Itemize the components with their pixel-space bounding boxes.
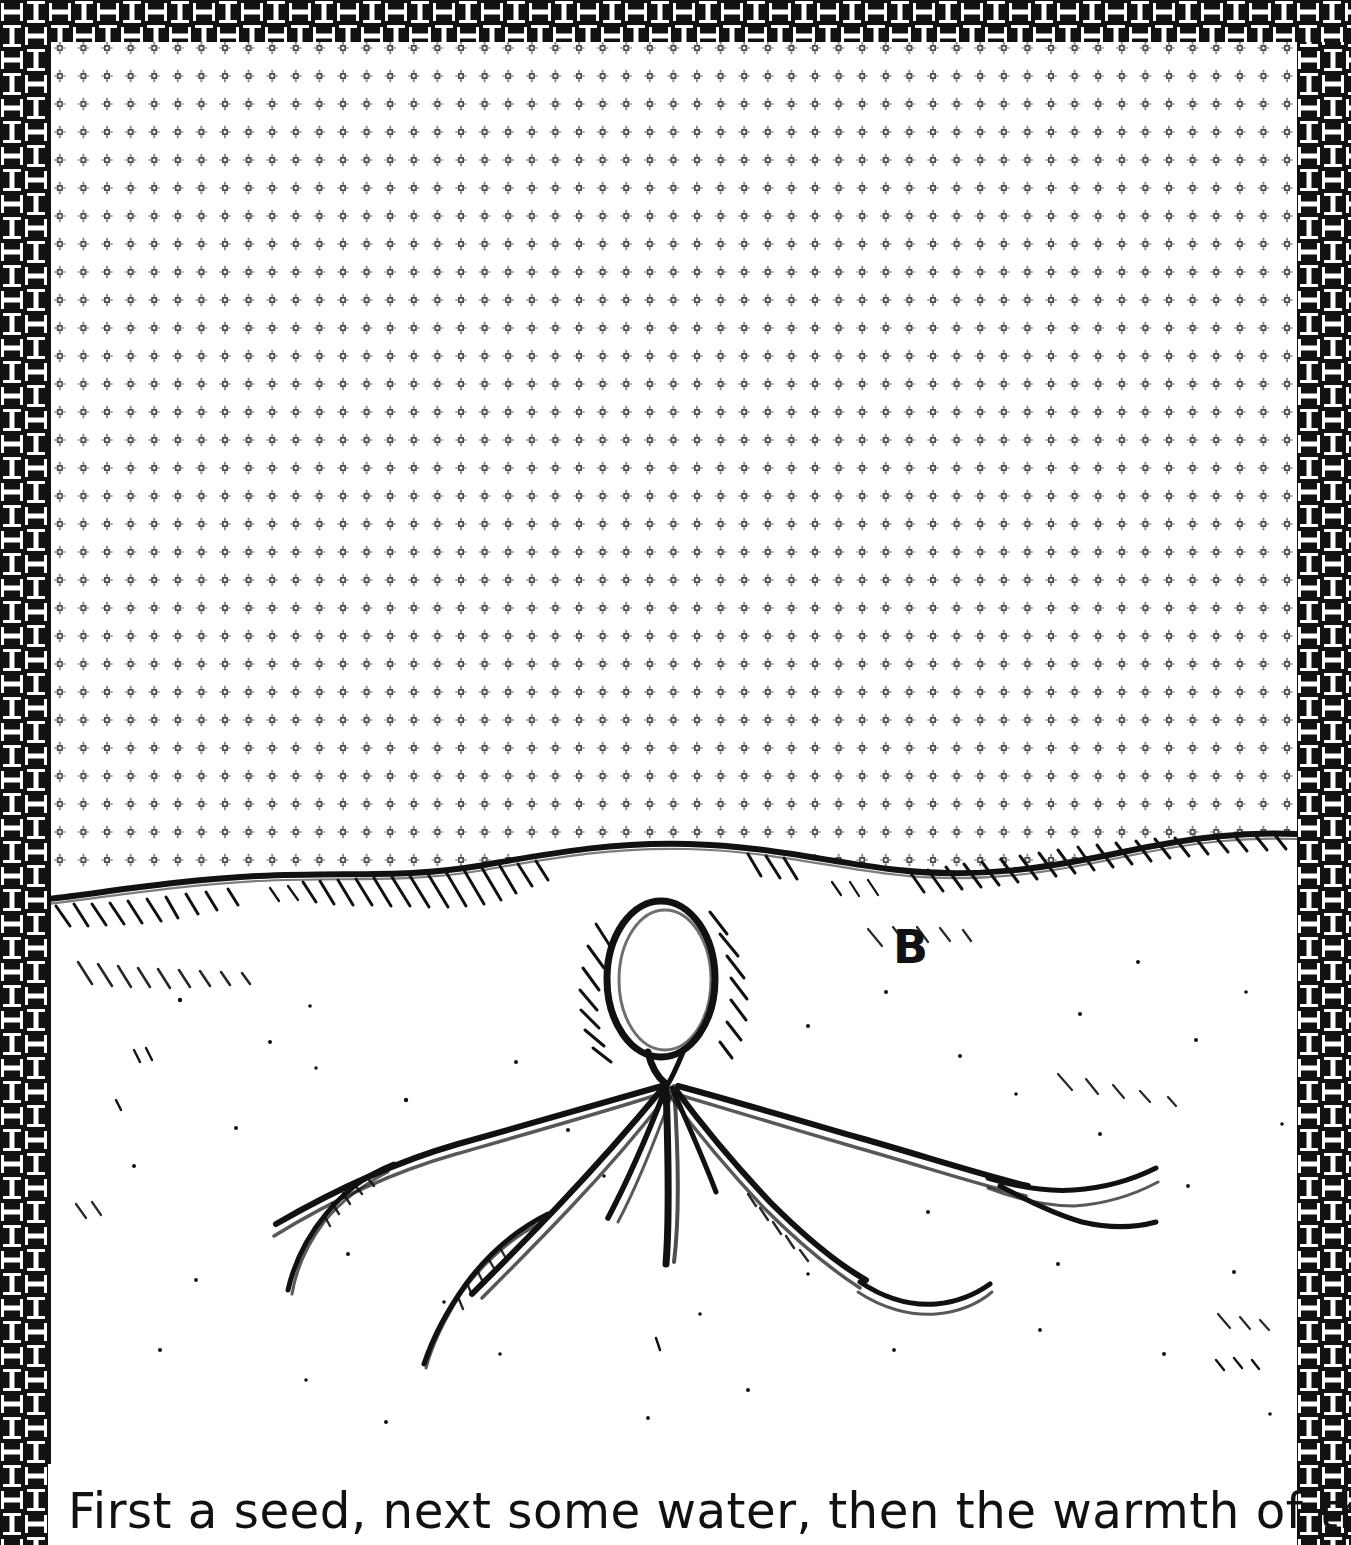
dotted-sky-region	[48, 34, 1297, 869]
page-root: B First a seed, next some water, then th…	[0, 0, 1351, 1545]
border-top	[0, 0, 1351, 42]
panel-label-b: B	[893, 924, 928, 970]
seed	[607, 901, 715, 1057]
story-caption: First a seed, next some water, then the …	[68, 1482, 1265, 1542]
illustration-panel: B	[48, 34, 1297, 1464]
soil-region	[48, 794, 1297, 1464]
border-right	[1297, 0, 1351, 1545]
border-left	[0, 0, 48, 1545]
